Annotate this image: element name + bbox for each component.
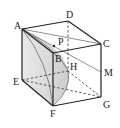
label-p: P xyxy=(58,36,64,47)
label-e: E xyxy=(13,76,19,87)
point-p xyxy=(53,45,55,47)
label-h: H xyxy=(70,61,77,72)
label-f: F xyxy=(50,108,56,119)
label-b: B xyxy=(55,53,62,64)
label-a: A xyxy=(14,20,22,31)
label-d: D xyxy=(66,9,73,20)
label-g: G xyxy=(103,99,110,110)
cube-diagram: A D C B P H M E F G xyxy=(0,0,120,128)
label-c: C xyxy=(103,38,110,49)
label-m: M xyxy=(104,67,113,78)
